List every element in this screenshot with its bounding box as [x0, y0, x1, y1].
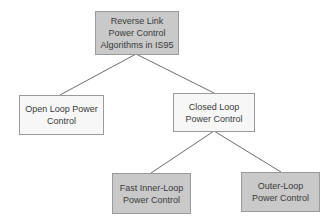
node-closed-loop-label: Closed Loop Power Control — [177, 101, 251, 125]
node-root-label: Reverse Link Power Control Algorithms in… — [99, 15, 175, 51]
node-open-loop-label: Open Loop Power Control — [23, 103, 100, 127]
edge-root-closed-loop — [136, 54, 214, 93]
node-root: Reverse Link Power Control Algorithms in… — [95, 11, 179, 55]
edge-closed-fast-inner — [151, 131, 214, 173]
node-outer-loop: Outer-Loop Power Control — [241, 172, 320, 212]
node-open-loop: Open Loop Power Control — [19, 95, 104, 135]
edge-root-open-loop — [60, 54, 136, 95]
node-fast-inner-loop-label: Fast Inner-Loop Power Control — [116, 182, 187, 206]
node-outer-loop-label: Outer-Loop Power Control — [245, 180, 316, 204]
node-closed-loop: Closed Loop Power Control — [173, 93, 255, 132]
node-fast-inner-loop: Fast Inner-Loop Power Control — [112, 173, 191, 214]
edge-closed-outer — [214, 131, 281, 172]
